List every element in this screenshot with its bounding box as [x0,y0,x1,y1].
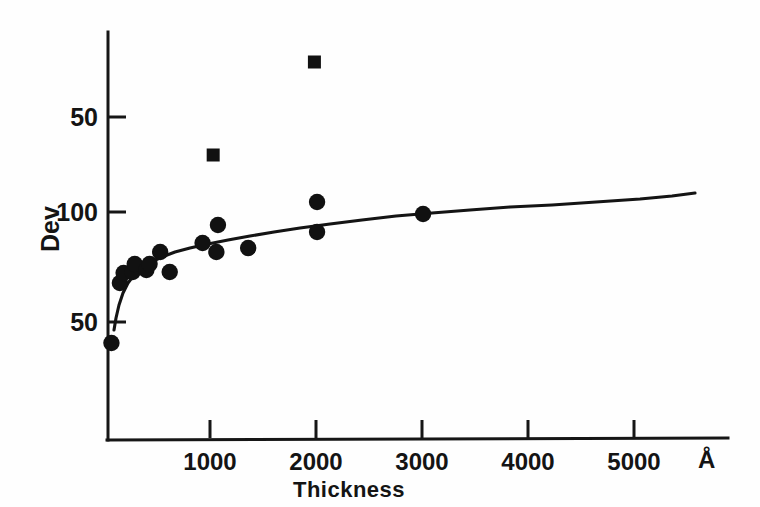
x-tick-label-1000: 1000 [160,448,260,476]
y-tick-label-bottom: 50 [54,308,98,337]
x-tick-label-5000: 5000 [584,448,684,476]
y-tick-label-top: 50 [54,103,98,132]
data-point-circle-7 [152,244,168,260]
data-point-circle-8 [162,264,178,280]
data-point-square-1 [308,56,321,69]
data-point-circle-9 [194,235,210,251]
data-point-circle-12 [240,240,256,256]
x-tick-label-4000: 4000 [478,448,578,476]
figure-container: 50 100 50 Dev 1000 2000 3000 4000 5000 Å… [0,0,760,507]
x-axis-title: Thickness [259,477,439,503]
data-point-square-0 [207,149,220,162]
data-point-circle-15 [415,206,431,222]
scatter-plot-canvas [0,0,760,507]
data-point-circle-14 [309,224,325,240]
data-point-circle-11 [210,217,226,233]
square-data-markers [207,56,321,162]
x-axis-ticks [210,420,634,438]
y-axis-title: Dev [36,206,65,252]
data-point-circle-13 [309,194,325,210]
x-tick-label-3000: 3000 [372,448,472,476]
x-axis-unit-angstrom: Å [698,446,715,474]
x-tick-label-2000: 2000 [266,448,366,476]
data-point-circle-0 [103,335,119,351]
x-axis-line [107,438,728,440]
data-point-circle-10 [208,244,224,260]
fitted-curve [114,193,695,330]
